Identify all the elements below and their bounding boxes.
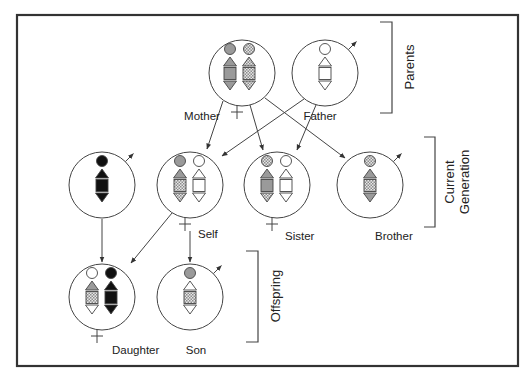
chromosome-circle — [281, 156, 292, 167]
label-father: Father — [303, 110, 336, 122]
chromosome-square — [184, 292, 196, 304]
chromosome-circle — [87, 268, 98, 279]
chromosome-square — [280, 180, 292, 192]
cell-circle — [157, 152, 223, 218]
chromosome-circle — [194, 156, 205, 167]
chromosome-circle — [97, 156, 108, 167]
chromosome-circle — [185, 268, 196, 279]
label-brother: Brother — [375, 230, 413, 242]
chromosome-square — [243, 68, 255, 80]
label-current-generation-line2: Generation — [457, 150, 472, 214]
chromosome-square — [261, 180, 273, 192]
label-mother: Mother — [184, 110, 220, 122]
chromosome-square — [364, 180, 376, 192]
chromosome-square — [319, 68, 331, 80]
cell-circle — [209, 40, 275, 106]
chromosome-square — [174, 180, 186, 192]
chromosome-circle — [262, 156, 273, 167]
label-parents: Parents — [402, 44, 417, 89]
label-self: Self — [198, 228, 219, 240]
chromosome-circle — [225, 44, 236, 55]
label-sister: Sister — [285, 230, 315, 242]
person-spouse — [69, 152, 135, 218]
cell-circle — [244, 152, 310, 218]
chromosome-square — [96, 180, 108, 192]
chromosome-square — [105, 292, 117, 304]
chromosome-circle — [320, 44, 331, 55]
chromosome-circle — [106, 268, 117, 279]
label-daughter: Daughter — [112, 344, 159, 356]
chromosome-square — [86, 292, 98, 304]
label-son: Son — [186, 344, 206, 356]
chromosome-circle — [244, 44, 255, 55]
chromosome-square — [224, 68, 236, 80]
label-current-generation-line1: Current — [442, 160, 457, 204]
cell-circle — [69, 264, 135, 330]
chromosome-square — [193, 180, 205, 192]
chromosome-circle — [175, 156, 186, 167]
chromosome-circle — [365, 156, 376, 167]
label-offspring: Offspring — [268, 270, 283, 323]
inheritance-diagram: MotherFatherSelfSisterBrotherDaughterSon… — [0, 0, 531, 386]
